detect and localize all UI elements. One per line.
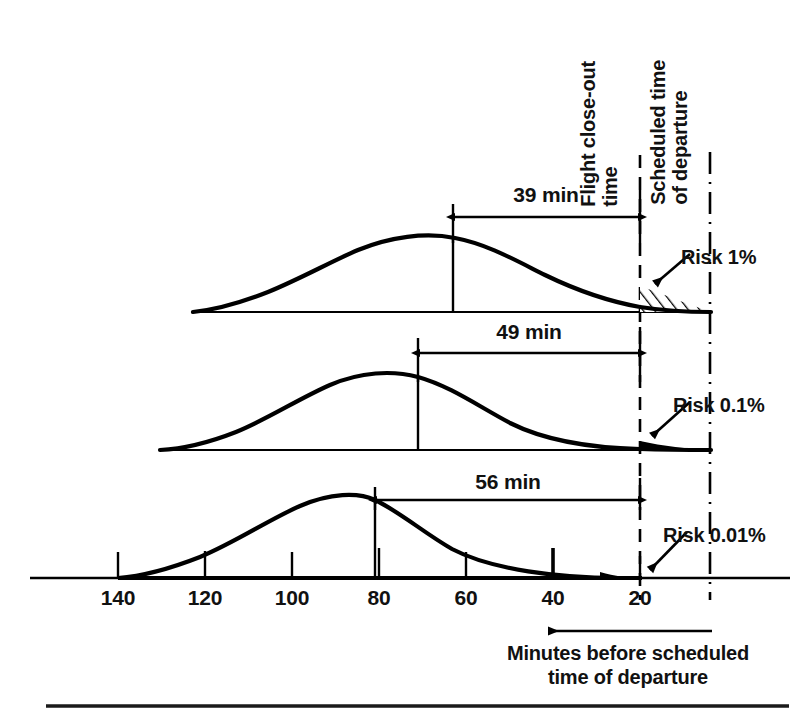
scheduled-departure-label-line2: of departure [670, 60, 692, 205]
distribution-curve-risk-1pct [193, 190, 712, 312]
scheduled-departure-label-line1: Scheduled time [647, 60, 669, 205]
distribution-curve-risk-0-1pct [160, 327, 712, 451]
flight-close-out-label: Flight close-out time [577, 61, 622, 207]
scheduled-departure-label: Scheduled time of departure [647, 60, 692, 205]
span-label-56min: 56 min [475, 470, 540, 494]
x-tick-label-100: 100 [275, 586, 309, 610]
x-tick-label-60: 60 [455, 586, 478, 610]
risk-tail-0-01pct [600, 572, 641, 579]
x-tick-label-120: 120 [188, 586, 222, 610]
span-label-49min: 49 min [496, 320, 561, 344]
x-tick-label-80: 80 [368, 586, 391, 610]
x-tick-label-20: 20 [629, 586, 652, 610]
risk-label-0-01pct: Risk 0.01% [663, 524, 766, 547]
x-axis-caption-line2: time of departure [507, 665, 749, 689]
figure-passenger-arrival-distributions: Flight close-out time Scheduled time of … [0, 0, 810, 720]
x-axis-caption-line1: Minutes before scheduled [507, 641, 749, 665]
x-tick-label-140: 140 [101, 586, 135, 610]
risk-label-0-1pct: Risk 0.1% [673, 394, 765, 417]
flight-close-out-label-line1: Flight close-out [577, 61, 599, 207]
x-axis-caption: Minutes before scheduled time of departu… [507, 641, 749, 689]
span-label-39min: 39 min [513, 183, 578, 207]
risk-label-1pct: Risk 1% [681, 246, 756, 269]
x-tick-label-40: 40 [542, 586, 565, 610]
flight-close-out-label-line2: time [600, 61, 622, 207]
